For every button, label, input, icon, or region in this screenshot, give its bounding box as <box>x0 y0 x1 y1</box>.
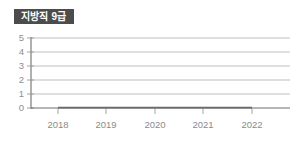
y-axis-label-5: 5 <box>19 32 24 43</box>
y-axis-labels: 5 4 3 2 1 0 <box>19 32 24 113</box>
y-axis-label-3: 3 <box>19 60 24 71</box>
y-axis-label-4: 4 <box>19 46 24 57</box>
x-axis-tickmarks <box>58 108 252 114</box>
x-axis-label-2018: 2018 <box>47 119 68 130</box>
x-axis-label-2020: 2020 <box>144 119 165 130</box>
x-axis-label-2022: 2022 <box>241 119 262 130</box>
gridlines <box>31 38 290 94</box>
y-axis-label-1: 1 <box>19 88 24 99</box>
x-axis-labels: 2018 2019 2020 2021 2022 <box>47 119 262 130</box>
line-chart-plot: 5 4 3 2 1 0 2018 2019 2020 2021 2022 <box>0 0 295 141</box>
x-axis-label-2021: 2021 <box>192 119 213 130</box>
x-axis-label-2019: 2019 <box>95 119 116 130</box>
y-axis-label-2: 2 <box>19 74 24 85</box>
chart-container: 지방직 9급 5 4 3 2 1 0 <box>0 0 295 141</box>
y-axis-label-0: 0 <box>19 102 24 113</box>
